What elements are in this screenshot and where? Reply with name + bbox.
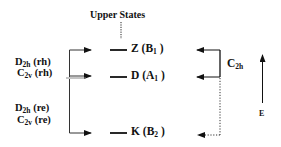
upper-states-title: Upper States (90, 10, 145, 20)
level-label-z: Z (B1 ) (131, 43, 164, 56)
right-label-c2h: C2h (227, 58, 243, 71)
left-label-d2h-re: D2h (re) (15, 103, 49, 115)
level-label-k: K (B2 ) (131, 126, 165, 139)
energy-axis-label: E (259, 110, 264, 118)
level-label-d: D (A1 ) (131, 70, 165, 83)
left-label-c2v-rh: C2v (rh) (17, 68, 52, 80)
left-bracket-rh (66, 50, 91, 78)
left-bracket-re (70, 79, 92, 133)
left-label-c2v-re: C2v (re) (17, 115, 51, 127)
right-bracket-c2h (197, 50, 220, 135)
